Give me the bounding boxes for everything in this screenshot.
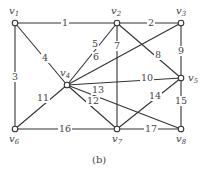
edge-weight-label: 1 — [62, 17, 68, 28]
edge-weight-label: 11 — [37, 92, 49, 103]
node-label: v2 — [111, 5, 122, 18]
node-v6 — [12, 126, 18, 132]
node-label: v5 — [188, 72, 199, 85]
edge-weight-label: 14 — [149, 90, 161, 101]
node-label: v8 — [176, 133, 187, 146]
edge-v7-v5 — [117, 78, 181, 129]
node-v3 — [178, 20, 184, 26]
edge-weight-label: 8 — [155, 49, 161, 60]
node-label: v6 — [9, 133, 20, 146]
edge-weight-label: 7 — [114, 40, 120, 51]
node-label: v1 — [9, 5, 19, 18]
edge-weight-label: 5 — [92, 38, 98, 49]
edge-weight-label: 6 — [93, 51, 99, 62]
edge-weight-label: 4 — [42, 52, 48, 63]
edge-weight-label: 9 — [178, 45, 184, 56]
edge-weight-label: 12 — [87, 95, 99, 106]
edge-weight-label: 15 — [175, 95, 187, 106]
node-v7 — [114, 126, 120, 132]
edge-labels: 1234567891011121314151617 — [11, 17, 188, 134]
node-v8 — [178, 126, 184, 132]
nodes — [12, 20, 184, 132]
node-v2 — [114, 20, 120, 26]
node-v4 — [64, 82, 70, 88]
edge-weight-label: 3 — [12, 71, 18, 82]
edge-v4-v5 — [67, 78, 181, 85]
edge-v2-v5 — [117, 23, 181, 78]
edge-weight-label: 10 — [141, 72, 153, 83]
edge-v4-v3 — [67, 23, 181, 85]
node-v5 — [178, 75, 184, 81]
node-v1 — [12, 20, 18, 26]
edge-weight-label: 16 — [59, 123, 71, 134]
node-label: v3 — [176, 5, 187, 18]
edge-weight-label: 13 — [92, 84, 104, 95]
edge-weight-label: 2 — [148, 17, 154, 28]
graph-diagram: 1234567891011121314151617 v1v2v3v4v5v6v7… — [0, 0, 204, 170]
figure-caption: (b) — [92, 154, 106, 165]
node-label: v7 — [112, 133, 123, 146]
edge-weight-label: 17 — [145, 123, 157, 134]
